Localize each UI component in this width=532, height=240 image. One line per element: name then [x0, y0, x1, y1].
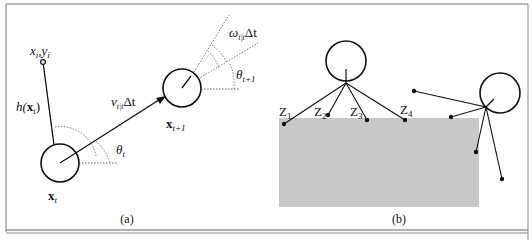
pose-t-label: xt [48, 188, 58, 205]
panel-b: Z1 Z2 Z3 Z4 (b) [279, 41, 520, 226]
landmark-point [41, 60, 46, 65]
omega-arc-2 [212, 45, 227, 63]
obstacle-region [279, 118, 479, 207]
theta-t1-arc [230, 64, 234, 89]
panel-a: xi,yi h(xt) vt|tΔt ωt|tΔt θt+1 θt xt+1 x… [16, 15, 258, 226]
theta-t1-label: θt+1 [236, 67, 255, 84]
panel-b-caption: (b) [392, 212, 406, 226]
z3-label: Z3 [350, 104, 363, 121]
right-point-1 [412, 89, 416, 93]
ray-z2 [328, 83, 346, 115]
z1-label: Z1 [279, 104, 291, 121]
pose-t1-label: xt+1 [166, 116, 186, 133]
z4-label: Z4 [400, 102, 413, 119]
ray-right-1 [414, 91, 486, 107]
figure-container: xi,yi h(xt) vt|tΔt ωt|tΔt θt+1 θt xt+1 x… [0, 0, 532, 240]
measurement-line [43, 62, 54, 145]
theta-t-label: θt [116, 142, 125, 159]
landmark-label: xi,yi [29, 43, 50, 60]
measurement-label: h(xt) [16, 99, 40, 116]
z1-point [282, 122, 286, 126]
z3-point [365, 118, 369, 122]
z2-point [326, 113, 330, 117]
velocity-label: vt|tΔt [111, 94, 136, 111]
ray-right-4 [486, 107, 502, 179]
omega-arc-1 [208, 51, 219, 68]
robot-right-heading [486, 99, 494, 107]
omega-label: ωt|tΔt [229, 25, 257, 42]
z2-label: Z2 [314, 104, 326, 121]
z4-point [403, 118, 407, 122]
right-point-4 [500, 177, 504, 181]
theta-t-small-arc [96, 141, 110, 163]
right-point-2 [449, 115, 453, 119]
right-point-3 [474, 150, 478, 154]
panel-a-caption: (a) [120, 212, 133, 226]
ray-right-2 [451, 107, 486, 117]
